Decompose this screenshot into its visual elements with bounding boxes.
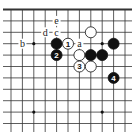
point-label-c: c <box>54 27 59 38</box>
move-number-3: 3 <box>77 62 82 71</box>
star-point <box>101 42 104 45</box>
white-stone <box>74 50 85 61</box>
point-label-b: b <box>20 38 25 49</box>
star-point <box>32 42 35 45</box>
move-number-1: 1 <box>66 40 71 49</box>
white-stone <box>85 27 96 38</box>
go-board: edcba1234 <box>0 0 135 139</box>
move-number-4: 4 <box>111 74 116 83</box>
point-label-e: e <box>54 15 59 26</box>
black-stone <box>85 50 96 61</box>
point-label-d: d <box>43 27 48 38</box>
black-stone <box>51 38 62 49</box>
black-stone <box>108 38 119 49</box>
white-stone <box>85 61 96 72</box>
move-number-2: 2 <box>54 51 59 60</box>
star-point <box>32 111 35 114</box>
black-stone <box>97 50 108 61</box>
point-label-a: a <box>77 38 82 49</box>
star-point <box>101 111 104 114</box>
